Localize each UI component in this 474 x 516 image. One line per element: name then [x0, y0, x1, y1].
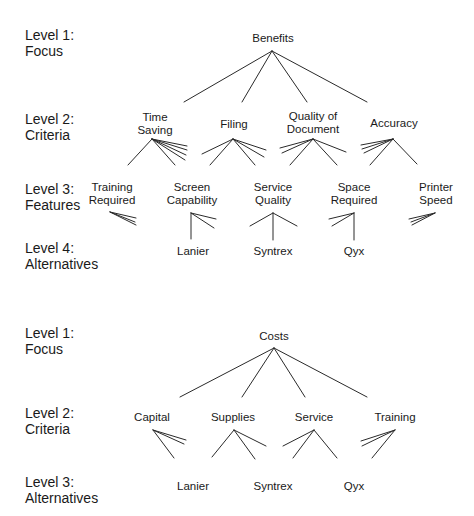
alternative-node-qyx: Qyx: [344, 480, 364, 493]
level-number: Level 3:: [25, 474, 98, 490]
node-label-line1: Quality of: [287, 110, 339, 123]
node-label-line2: Capability: [167, 194, 218, 207]
node-label-line2: Required: [89, 194, 136, 207]
costs-focus-to-criteria-lines: [180, 348, 367, 397]
benefits-focus-to-criteria-lines: [184, 51, 367, 102]
level-name: Alternatives: [25, 490, 98, 506]
node-label: Qyx: [344, 480, 364, 493]
node-label-line1: Training: [89, 181, 136, 194]
level-number: Level 3:: [25, 181, 80, 197]
benefits-level-2-label: Level 2: Criteria: [25, 111, 74, 143]
node-label: Training: [374, 411, 415, 424]
accuracy-fan: [361, 139, 417, 165]
criterion-node-time-saving: Time Saving: [137, 111, 172, 137]
costs-level-1-label: Level 1: Focus: [25, 325, 74, 357]
quality-of-document-fan: [280, 139, 346, 165]
filing-fan: [202, 139, 266, 165]
alternative-node-syntrex: Syntrex: [254, 245, 293, 258]
node-label-line2: Saving: [137, 124, 172, 137]
alternative-node-lanier: Lanier: [177, 480, 209, 493]
feature-node-training-required: Training Required: [89, 181, 136, 207]
training-fan: [361, 430, 395, 458]
feature-node-service-quality: Service Quality: [254, 181, 292, 207]
benefits-level-1-label: Level 1: Focus: [25, 27, 74, 59]
screen-capability-fan: [191, 213, 216, 239]
alternative-node-syntrex: Syntrex: [254, 480, 293, 493]
node-label-line2: Document: [287, 123, 339, 136]
feature-node-space-required: Space Required: [331, 181, 378, 207]
benefits-level-4-label: Level 4: Alternatives: [25, 240, 98, 272]
node-label-line1: Service: [254, 181, 292, 194]
node-label: Lanier: [177, 480, 209, 493]
node-label-line1: Time: [137, 111, 172, 124]
alternative-node-lanier: Lanier: [177, 245, 209, 258]
node-label: Supplies: [211, 411, 255, 424]
printer-speed-fan: [409, 213, 435, 225]
costs-level-3-label: Level 3: Alternatives: [25, 474, 98, 506]
node-label-line1: Accuracy: [370, 117, 417, 130]
criterion-node-quality-of-document: Quality of Document: [287, 110, 339, 136]
node-label-line2: Required: [331, 194, 378, 207]
node-label-line1: Printer: [419, 181, 453, 194]
criterion-node-service: Service: [295, 411, 333, 424]
criterion-node-capital: Capital: [134, 411, 170, 424]
feature-node-screen-capability: Screen Capability: [167, 181, 218, 207]
node-label-line1: Screen: [167, 181, 218, 194]
criterion-node-accuracy: Accuracy: [370, 117, 417, 130]
node-label: Lanier: [177, 245, 209, 258]
level-number: Level 1:: [25, 27, 74, 43]
benefits-level-3-label: Level 3: Features: [25, 181, 80, 213]
node-label: Costs: [259, 330, 288, 343]
level-name: Criteria: [25, 127, 74, 143]
focus-node-benefits: Benefits: [252, 32, 294, 45]
costs-level-2-label: Level 2: Criteria: [25, 405, 74, 437]
criterion-node-supplies: Supplies: [211, 411, 255, 424]
level-name: Focus: [25, 43, 74, 59]
node-label-line1: Space: [331, 181, 378, 194]
node-label: Benefits: [252, 32, 294, 45]
feature-node-printer-speed: Printer Speed: [419, 181, 453, 207]
node-label-line2: Quality: [254, 194, 292, 207]
node-label: Capital: [134, 411, 170, 424]
level-number: Level 1:: [25, 325, 74, 341]
level-name: Criteria: [25, 421, 74, 437]
space-required-fan: [329, 213, 354, 240]
time-saving-fan: [128, 139, 187, 165]
service-quality-fan: [250, 213, 297, 240]
level-name: Focus: [25, 341, 74, 357]
node-label: Syntrex: [254, 245, 293, 258]
training-required-fan: [110, 212, 136, 225]
level-number: Level 4:: [25, 240, 98, 256]
level-name: Features: [25, 197, 80, 213]
level-name: Alternatives: [25, 256, 98, 272]
alternative-node-qyx: Qyx: [344, 245, 364, 258]
capital-fan: [153, 430, 186, 458]
node-label-line1: Filing: [220, 118, 247, 131]
node-label: Qyx: [344, 245, 364, 258]
node-label: Syntrex: [254, 480, 293, 493]
node-label-line2: Speed: [419, 194, 453, 207]
level-number: Level 2:: [25, 405, 74, 421]
node-label: Service: [295, 411, 333, 424]
criterion-node-filing: Filing: [220, 118, 247, 131]
criterion-node-training: Training: [374, 411, 415, 424]
level-number: Level 2:: [25, 111, 74, 127]
focus-node-costs: Costs: [259, 330, 288, 343]
supplies-fan: [212, 430, 266, 459]
service-fan: [283, 430, 337, 458]
